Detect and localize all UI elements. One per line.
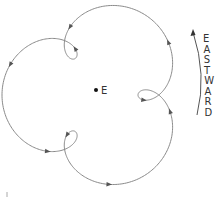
retrograde-loop-diagram: E EASTWARD: [0, 0, 216, 199]
eastward-label: EASTWARD: [203, 33, 214, 118]
eastward-letter: A: [204, 86, 211, 97]
path-arrow-icon: [165, 39, 171, 46]
earth-dot: [94, 88, 98, 92]
eastward-arrowhead-icon: [191, 29, 196, 36]
eastward-letter: T: [203, 65, 211, 76]
path-arrow-icon: [167, 108, 173, 115]
earth-label: E: [101, 85, 107, 96]
path-arrow-icon: [7, 61, 14, 68]
eastward-letter: S: [204, 54, 210, 65]
eastward-letter: W: [204, 75, 214, 86]
eastward-arrow: [193, 32, 201, 115]
eastward-letter: D: [205, 107, 213, 118]
eastward-letter: E: [203, 33, 209, 44]
epicycle-path: [2, 5, 173, 184]
direction-arrows: [7, 24, 173, 187]
path-arrow-icon: [45, 149, 51, 154]
eastward-letter: R: [205, 96, 212, 107]
path-arrow-icon: [106, 182, 112, 187]
eastward-letter: A: [203, 44, 210, 55]
